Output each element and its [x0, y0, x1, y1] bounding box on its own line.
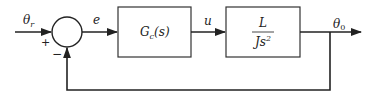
minus-sign: − [52, 47, 62, 61]
reference-input-signal: θr [15, 13, 51, 32]
svg-text:θr: θr [23, 13, 35, 29]
svg-text:θ0: θ0 [333, 17, 345, 32]
summing-junction: + − [41, 17, 82, 61]
output-subscript: 0 [340, 23, 345, 32]
error-label: e [93, 13, 100, 27]
plant-denominator: Js [252, 35, 266, 49]
plant-block: L Js2 [226, 7, 300, 57]
reference-subscript: r [30, 20, 35, 29]
control-label: u [204, 14, 212, 28]
controller-block: Gc(s) [118, 7, 191, 57]
error-signal: e [82, 13, 117, 32]
plant-power: 2 [265, 34, 271, 43]
feedback-control-block-diagram: θr + − e Gc(s) u L Js2 θ0 [0, 0, 376, 98]
plant-numerator: L [258, 16, 267, 30]
output-signal: θ0 [300, 17, 361, 32]
svg-text:Gc(s): Gc(s) [140, 25, 170, 41]
plus-sign: + [41, 36, 50, 49]
control-signal: u [191, 14, 225, 32]
controller-main: G [140, 25, 150, 39]
controller-arg: (s) [154, 25, 170, 39]
